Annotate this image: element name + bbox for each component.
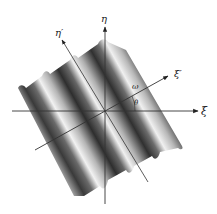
grating-diagram: ξ η ξ′ η′ ω θ (0, 0, 217, 214)
eta-label: η (101, 13, 107, 24)
xi-prime-label: ξ′ (174, 68, 183, 79)
grating-surface (18, 39, 183, 196)
xi-label: ξ (201, 105, 208, 118)
eta-prime-label: η′ (55, 27, 64, 38)
omega-label: ω (132, 82, 139, 91)
